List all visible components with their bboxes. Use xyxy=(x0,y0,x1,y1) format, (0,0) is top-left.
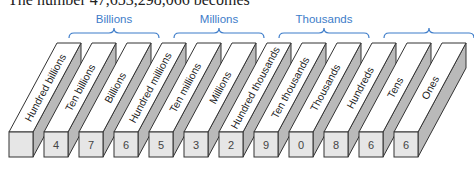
block-front xyxy=(9,132,33,157)
digit: 2 xyxy=(228,139,234,151)
digit: 6 xyxy=(403,139,409,151)
digit: 8 xyxy=(333,139,339,151)
digit: 5 xyxy=(158,139,164,151)
digit: 4 xyxy=(53,139,59,151)
group-label: Thousands xyxy=(296,13,353,25)
group-label: Billions xyxy=(96,13,133,25)
digit: 6 xyxy=(368,139,374,151)
digit: 6 xyxy=(123,139,129,151)
digit: 3 xyxy=(193,139,199,151)
group-label: Millions xyxy=(200,13,239,25)
digit: 0 xyxy=(298,139,304,151)
group-bracket: Thousands xyxy=(279,13,369,38)
group-bracket: Millions xyxy=(174,13,264,38)
digit: 7 xyxy=(88,139,94,151)
group-bracket xyxy=(384,28,474,38)
place-value-diagram: Hundred billionsTen billions4Billions7Hu… xyxy=(0,0,474,169)
digit: 9 xyxy=(263,139,269,151)
group-bracket: Billions xyxy=(69,13,159,38)
